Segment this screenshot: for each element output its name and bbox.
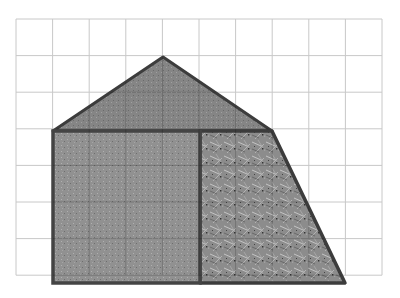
square [53, 131, 200, 283]
geometry-diagram [0, 0, 400, 298]
